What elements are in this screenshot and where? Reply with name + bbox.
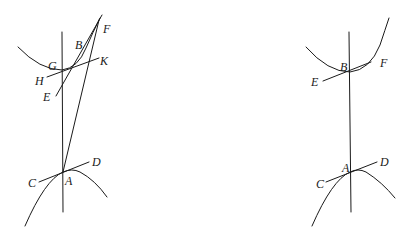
label-C: C <box>28 176 37 190</box>
right-figure: B F E A D C <box>306 18 395 226</box>
label-B-right: B <box>340 60 348 74</box>
right-upper-curve <box>306 18 389 72</box>
label-A: A <box>64 174 73 188</box>
label-K: K <box>99 54 109 68</box>
label-B: B <box>75 38 83 52</box>
label-G: G <box>48 59 57 73</box>
geometry-diagram: F B G K H E D C A B F E A D C <box>0 0 412 236</box>
label-F: F <box>102 22 111 36</box>
right-lower-curve <box>312 170 395 226</box>
label-H: H <box>34 74 45 88</box>
label-A-right: A <box>341 161 350 175</box>
label-E: E <box>42 90 51 104</box>
left-figure: F B G K H E D C A <box>18 15 111 226</box>
right-vertical-axis <box>349 32 351 212</box>
left-vertical-axis <box>62 32 63 212</box>
left-tangent-line-EF <box>56 15 102 96</box>
label-D-right: D <box>379 155 389 169</box>
label-E-right: E <box>310 75 319 89</box>
left-line-CD <box>39 162 89 182</box>
label-D: D <box>91 155 101 169</box>
right-line-CD <box>326 162 377 182</box>
label-C-right: C <box>316 177 325 191</box>
label-F-right: F <box>379 56 388 70</box>
